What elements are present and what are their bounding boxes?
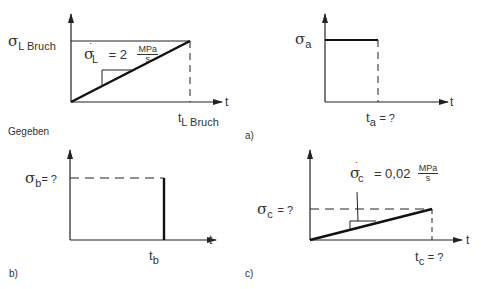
b-t-label: tb <box>149 249 159 262</box>
panel-b-tag: b) <box>9 269 18 279</box>
panel-a-tag: a) <box>245 131 254 141</box>
b-sigma-label: σb= ? <box>25 171 57 186</box>
c-ramp-line <box>310 209 432 240</box>
c-sigma-label: σc = ? <box>257 202 293 217</box>
c-rate-leader-line <box>357 192 358 221</box>
a-sigma-label: σa <box>295 32 311 47</box>
panel-a-plot <box>325 14 448 102</box>
diagram-canvas <box>0 0 481 289</box>
b-t-axis-label: t <box>209 234 212 246</box>
given-t-axis-label: t <box>225 96 228 108</box>
c-rate-label: σ˙c = 0,02 MPas <box>350 164 438 184</box>
given-rate-label: σ˙L = 2 MPas <box>84 45 158 65</box>
panel-b-plot <box>70 150 216 240</box>
c-t-axis-label: t <box>466 234 469 246</box>
given-t-break-label: tL Bruch <box>178 112 219 124</box>
c-t-label: tc = ? <box>415 250 443 263</box>
a-t-label: ta = ? <box>366 111 395 124</box>
given-sigma-label: σL Bruch <box>8 34 56 49</box>
given-section-label: Gegeben <box>8 127 49 137</box>
a-t-axis-label: t <box>450 96 453 108</box>
panel-c-tag: c) <box>245 269 253 279</box>
